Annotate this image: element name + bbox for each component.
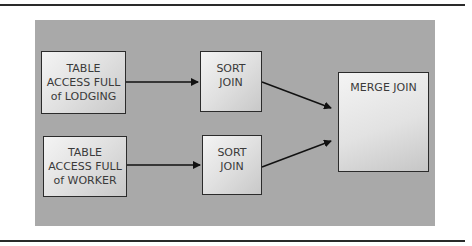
node-line: JOIN <box>220 160 243 174</box>
node-table-access-lodging: TABLE ACCESS FULL of LODGING <box>41 51 126 114</box>
node-line: TABLE <box>66 62 100 76</box>
node-line: MERGE JOIN <box>350 81 416 95</box>
edge-sort2-to-merge <box>262 141 331 167</box>
bottom-rule <box>0 240 465 242</box>
node-table-access-worker: TABLE ACCESS FULL of WORKER <box>43 136 127 197</box>
node-line: SORT <box>217 146 246 160</box>
node-line: of LODGING <box>51 90 116 104</box>
node-line: SORT <box>216 62 245 76</box>
node-merge-join: MERGE JOIN <box>338 72 429 172</box>
node-line: of WORKER <box>53 174 116 188</box>
node-sort-join-1: SORT JOIN <box>200 51 262 112</box>
edge-sort1-to-merge <box>262 82 331 108</box>
node-line: ACCESS FULL <box>48 160 122 174</box>
node-line: ACCESS FULL <box>47 76 121 90</box>
node-line: TABLE <box>68 146 102 160</box>
node-sort-join-2: SORT JOIN <box>202 135 262 195</box>
node-line: JOIN <box>219 76 242 90</box>
